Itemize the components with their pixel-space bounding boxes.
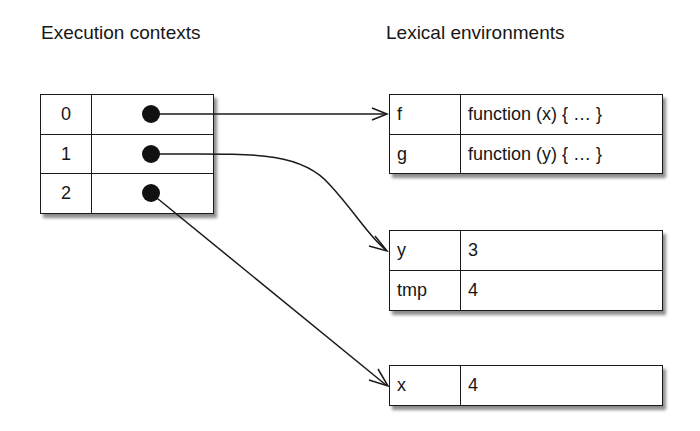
pointer-dot-1 [142,145,160,163]
pointer-dot-0 [142,105,160,123]
pointer-arrows [0,0,700,431]
pointer-dot-2 [142,184,160,202]
arrow-context-1 [152,154,386,250]
arrow-context-2 [152,194,386,385]
